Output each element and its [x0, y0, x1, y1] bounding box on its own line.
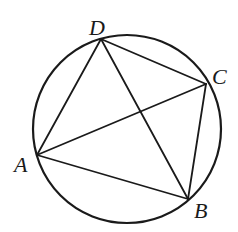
segment-ac [37, 84, 206, 155]
label-b: B [194, 198, 207, 223]
segment-bc [188, 84, 206, 199]
segments [37, 39, 206, 199]
segment-bd [101, 39, 188, 199]
label-a: A [12, 152, 28, 177]
label-c: C [212, 64, 227, 89]
cyclic-quadrilateral-diagram: D C A B [0, 0, 238, 232]
label-d: D [88, 15, 105, 40]
segment-ab [37, 155, 188, 199]
circumscribed-circle [33, 35, 221, 223]
segment-cd [101, 39, 206, 84]
